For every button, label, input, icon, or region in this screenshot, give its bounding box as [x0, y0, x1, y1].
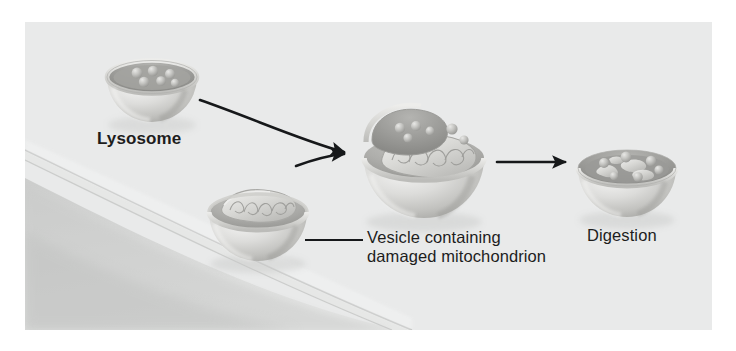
label-vesicle-line1: Vesicle containing: [367, 228, 501, 246]
label-lysosome: Lysosome: [97, 129, 181, 149]
label-vesicle-line2: damaged mitochondrion: [367, 247, 546, 265]
illustration-panel: [25, 22, 712, 330]
label-digestion: Digestion: [587, 226, 657, 245]
paper-grain: [25, 22, 712, 330]
lysosome-digestion-figure: Lysosome Vesicle containingdamaged mitoc…: [0, 0, 736, 351]
diagram-canvas: [0, 0, 736, 351]
label-vesicle-containing-damaged-mitochondrion: Vesicle containingdamaged mitochondrion: [367, 228, 546, 267]
